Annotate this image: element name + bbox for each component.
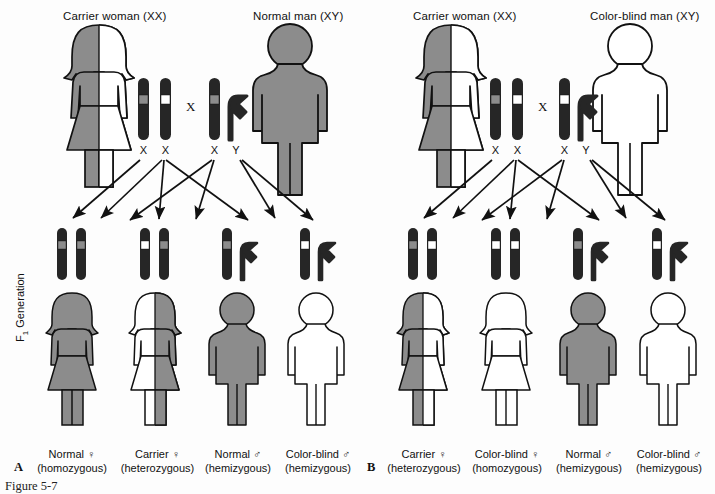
svg-text:Y: Y xyxy=(232,144,240,156)
panel-b-offspring-figure-1 xyxy=(397,293,449,425)
svg-text:Y: Y xyxy=(582,144,590,156)
svg-text:X: X xyxy=(140,144,148,156)
panel-b-canvas: X X X Y xyxy=(358,0,715,492)
offspring-label-2: Color-blind ♀ (homozygous) xyxy=(465,448,549,475)
panel-a-offspring-chromosomes xyxy=(57,228,335,280)
panel-a-offspring-figure-1 xyxy=(46,293,98,425)
panel-b-mother-chromosomes: X X xyxy=(490,78,523,156)
panel-b: Carrier woman (XX) Color-blind man (XY) … xyxy=(358,0,715,492)
panel-b-father-chromosomes: X Y xyxy=(559,78,597,156)
offspring-label-4: Color-blind ♂ (hemizygous) xyxy=(275,448,361,475)
panel-a-canvas: X X X Y xyxy=(0,0,357,492)
panel-b-mother-figure xyxy=(416,25,486,187)
panel-a-mother-chromosomes: X X xyxy=(138,78,171,156)
svg-text:X: X xyxy=(492,144,500,156)
svg-text:X: X xyxy=(561,144,569,156)
svg-text:X: X xyxy=(162,144,170,156)
panel-a: Carrier woman (XX) Normal man (XY) X xyxy=(0,0,357,492)
panel-a-father-chromosomes: X Y xyxy=(209,78,247,156)
offspring-label-1: Carrier ♀ (heterozygous) xyxy=(383,448,465,475)
panel-a-offspring-figure-3 xyxy=(209,293,265,425)
svg-text:X: X xyxy=(514,144,522,156)
panel-b-offspring-chromosomes xyxy=(408,228,687,280)
panel-a-offspring-figure-4 xyxy=(288,293,344,425)
panel-a-letter: A xyxy=(14,460,23,475)
panel-b-offspring-figure-3 xyxy=(560,293,616,425)
offspring-label-2: Carrier ♀ (heterozygous) xyxy=(115,448,200,475)
f1-generation-label: F1 Generation xyxy=(14,263,29,353)
panel-b-offspring-figure-4 xyxy=(640,293,696,425)
panel-b-letter: B xyxy=(367,460,375,475)
offspring-label-3: Normal ♂ (hemizygous) xyxy=(197,448,279,475)
offspring-label-4: Color-blind ♂ (hemizygous) xyxy=(626,448,712,475)
offspring-label-3: Normal ♂ (hemizygous) xyxy=(548,448,630,475)
panel-a-father-figure xyxy=(253,24,327,195)
offspring-label-1: Normal ♀ (homozygous) xyxy=(32,448,112,475)
panel-a-mother-figure xyxy=(64,25,134,187)
svg-text:X: X xyxy=(211,144,219,156)
panel-a-offspring-figure-2 xyxy=(129,293,181,425)
panel-b-offspring-figure-2 xyxy=(480,293,532,425)
figure-caption: Figure 5-7 xyxy=(5,479,57,494)
